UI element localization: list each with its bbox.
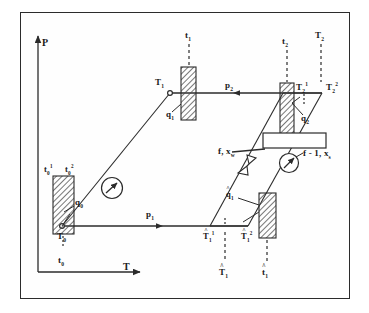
label-p1: p1: [146, 210, 154, 221]
label-q0: q0: [75, 198, 83, 209]
label-q0-sub: 0: [80, 203, 83, 209]
exchanger-q2-block: [280, 83, 294, 136]
label-t0: t0: [58, 256, 64, 267]
label-T2-top: T2: [315, 31, 324, 42]
label-q2: q2: [301, 114, 309, 125]
label-q1-sub: 1: [171, 115, 174, 121]
label-t2-sub: 2: [285, 42, 288, 48]
label-t0-2-sup: 2: [71, 163, 74, 169]
label-t0-1-sup: 1: [50, 163, 53, 169]
label-That1-1-sup: 1: [212, 230, 215, 236]
label-T2-1-sub: 2: [302, 88, 305, 94]
device-circle-arrows: [106, 158, 294, 193]
label-That1-sub: 1: [225, 273, 228, 279]
label-f-xs-base: f - 1, x: [303, 148, 329, 158]
label-That1-2-sub: 1: [247, 237, 250, 243]
label-t1: t1: [185, 31, 191, 42]
p1-arrow-right: [156, 223, 163, 229]
node-T1: [168, 91, 173, 96]
axis-label-T: T: [123, 262, 130, 272]
valve-inlet-line: [232, 149, 265, 152]
label-p2: p2: [225, 81, 233, 92]
label-qhat1: q1: [226, 190, 234, 201]
label-t0-1: t01: [44, 164, 53, 176]
leader-qhat1: [238, 198, 259, 205]
label-That1-2-sup: 2: [250, 230, 253, 236]
label-q2-sub: 2: [306, 119, 309, 125]
label-that1: t1: [262, 268, 268, 279]
exchanger-qhat1-block: [259, 193, 276, 238]
label-T1-sub: 1: [161, 83, 164, 89]
label-T2-2-sup: 2: [335, 81, 338, 87]
label-p2-sub: 2: [230, 86, 233, 92]
p2-arrow-left: [233, 90, 240, 96]
label-that1-sub: 1: [265, 273, 268, 279]
label-That1-2-base: T: [241, 232, 247, 241]
valve-stem: [247, 164, 249, 166]
label-T2-1: T21: [296, 82, 308, 94]
label-That1-1-sub: 1: [209, 237, 212, 243]
axis-label-P: P: [42, 38, 48, 48]
label-T0-sub: 0: [63, 237, 66, 243]
label-f-xw: f, xw: [218, 147, 235, 158]
axis-group: [38, 36, 140, 272]
label-T2-2-sub: 2: [332, 88, 335, 94]
label-t0-2: t02: [65, 164, 74, 176]
label-p1-sub: 1: [151, 215, 154, 221]
label-t0-1-sub: 0: [47, 170, 50, 176]
label-t1-sub: 1: [188, 36, 191, 42]
label-That1-2: T12: [241, 231, 252, 243]
label-f-xs-sub: s: [329, 154, 331, 160]
leader-fxs: [296, 153, 303, 157]
device-circles: [102, 154, 299, 199]
rectifier-box: [263, 133, 326, 148]
label-That1-base: T: [219, 268, 225, 277]
label-T0: T0: [57, 232, 66, 243]
label-T1: T1: [155, 78, 164, 89]
label-T2-2: T22: [326, 82, 338, 94]
label-qhat1-base: q: [226, 190, 231, 199]
label-That1: T1: [219, 268, 228, 279]
label-t0-sub: 0: [61, 261, 64, 267]
label-T2-top-sub: 2: [321, 36, 324, 42]
label-qhat1-sub: 1: [231, 195, 234, 201]
label-q1: q1: [166, 110, 174, 121]
label-That1-1-base: T: [203, 232, 209, 241]
valve-lower-triangle: [238, 166, 248, 175]
label-f-xw-sub: w: [231, 152, 235, 158]
exchanger-q1-block: [181, 67, 196, 120]
label-that1-base: t: [262, 268, 265, 277]
label-f-minus-1-xs: f - 1, xs: [303, 149, 331, 160]
label-f-xw-base: f, x: [218, 146, 231, 156]
label-That1-1: T11: [203, 231, 214, 243]
valve-upper-triangle: [247, 155, 256, 164]
label-t0-2-sub: 0: [68, 170, 71, 176]
diagram-page: P T t1 t2 T2 T1 q1 p2 T21 T22 q2 f, xw f…: [0, 0, 369, 313]
exchanger-q0-block: [53, 176, 74, 234]
label-t2: t2: [282, 37, 288, 48]
label-T2-1-sup: 1: [305, 81, 308, 87]
